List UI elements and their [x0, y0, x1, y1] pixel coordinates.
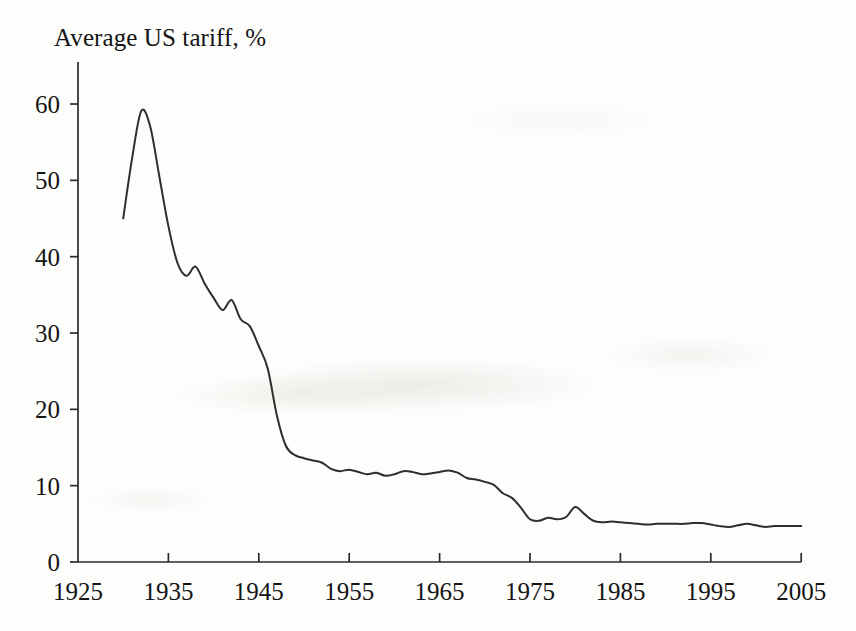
x-axis-tick-label: 1945	[234, 578, 284, 605]
x-axis-tick-label: 1925	[53, 578, 103, 605]
x-axis-tick-labels: 192519351945195519651975198519952005	[53, 578, 826, 605]
y-axis-tick-label: 0	[48, 549, 61, 576]
chart-figure: Average US tariff, % 0102030405060 19251…	[0, 0, 856, 631]
x-axis-tick-label: 1955	[324, 578, 374, 605]
x-axis-tick-label: 1975	[505, 578, 555, 605]
x-axis-tick-label: 1995	[686, 578, 736, 605]
y-axis-tick-label: 60	[35, 91, 60, 118]
x-axis-tick-label: 2005	[776, 578, 826, 605]
y-axis-tick-label: 30	[35, 320, 60, 347]
line-chart-plot: 0102030405060 19251935194519551965197519…	[0, 0, 856, 631]
x-axis-tick-label: 1935	[143, 578, 193, 605]
x-axis-tick-label: 1985	[595, 578, 645, 605]
y-axis-tick-label: 20	[35, 396, 60, 423]
y-axis-tick-marks	[70, 104, 78, 562]
y-axis-tick-label: 50	[35, 167, 60, 194]
y-axis-tick-labels: 0102030405060	[35, 91, 60, 576]
y-axis-tick-label: 40	[35, 244, 60, 271]
x-axis-tick-label: 1965	[415, 578, 465, 605]
y-axis-tick-label: 10	[35, 473, 60, 500]
x-axis-tick-marks	[168, 553, 801, 562]
tariff-series-line	[123, 110, 801, 527]
